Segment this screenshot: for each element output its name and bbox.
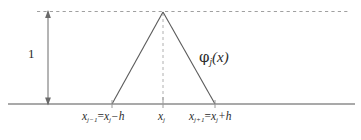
x-label-j-minus-1: xj−1=xj−h bbox=[82, 111, 125, 123]
figure-canvas bbox=[0, 0, 361, 140]
x-left-rhs-operator: −h bbox=[111, 110, 125, 122]
height-label: 1 bbox=[28, 47, 35, 60]
x-label-j: xj bbox=[158, 111, 165, 123]
phi-subscript: j bbox=[210, 57, 213, 67]
x-left-subscript: j−1 bbox=[87, 116, 97, 124]
phi-glyph: φ bbox=[199, 48, 210, 66]
x-right-rhs-subscript: j bbox=[216, 116, 218, 124]
x-right-rhs-operator: +h bbox=[218, 110, 232, 122]
hat-left-edge bbox=[112, 12, 163, 104]
hat-function-figure: 1 φj(x) xj−1=xj−h xj xj+1=xj+h bbox=[0, 0, 361, 140]
x-center-subscript: j bbox=[163, 116, 165, 124]
x-right-subscript: j+1 bbox=[194, 116, 204, 124]
x-left-rhs-subscript: j bbox=[109, 116, 111, 124]
phi-function-label: φj(x) bbox=[199, 50, 229, 65]
phi-argument: (x) bbox=[212, 49, 229, 65]
x-label-j-plus-1: xj+1=xj+h bbox=[189, 111, 232, 123]
